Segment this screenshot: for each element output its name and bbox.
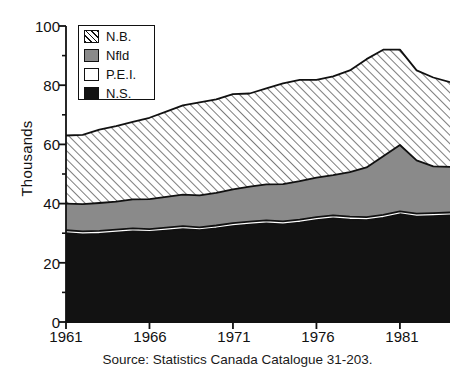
- chart-legend: N.B. Nfld P.E.I. N.S.: [78, 25, 155, 100]
- legend-label-ns: N.S.: [106, 87, 131, 100]
- stacked-area-chart: [0, 0, 475, 384]
- legend-swatch-black-icon: [84, 87, 99, 100]
- y-tick-label-100: 100: [20, 18, 60, 35]
- legend-label-nb: N.B.: [106, 30, 131, 43]
- legend-swatch-white-icon: [84, 68, 99, 81]
- y-tick-label-60: 60: [20, 136, 60, 153]
- x-tick-label-1981: 1981: [367, 328, 437, 345]
- chart-figure: Thousands 100 80 60 40 20 0 1961 1966 19…: [0, 0, 475, 384]
- legend-swatch-gray-icon: [84, 49, 99, 62]
- legend-label-nfld: Nfld: [106, 49, 129, 62]
- legend-item-ns: N.S.: [84, 84, 154, 102]
- x-tick-label-1976: 1976: [283, 328, 353, 345]
- x-tick-label-1971: 1971: [199, 328, 269, 345]
- legend-item-pei: P.E.I.: [84, 65, 154, 83]
- x-tick-label-1961: 1961: [31, 328, 101, 345]
- legend-swatch-hatch-icon: [84, 30, 99, 43]
- y-tick-label-40: 40: [20, 195, 60, 212]
- y-tick-label-20: 20: [20, 255, 60, 272]
- y-tick-label-80: 80: [20, 77, 60, 94]
- legend-item-nb: N.B.: [84, 27, 154, 45]
- source-note: Source: Statistics Canada Catalogue 31-2…: [0, 352, 475, 367]
- legend-label-pei: P.E.I.: [106, 68, 136, 81]
- x-tick-label-1966: 1966: [115, 328, 185, 345]
- legend-item-nfld: Nfld: [84, 46, 154, 64]
